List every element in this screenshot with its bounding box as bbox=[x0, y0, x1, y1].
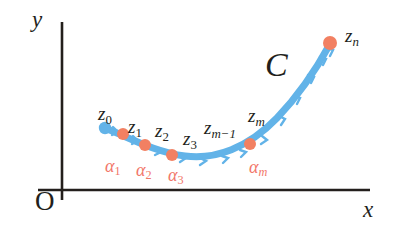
label-zm: zm bbox=[248, 106, 265, 129]
label-alpha-1-subscript: 1 bbox=[114, 164, 120, 178]
point-zn bbox=[323, 36, 337, 50]
x-axis-label: x bbox=[363, 198, 373, 221]
y-axis-label: y bbox=[32, 8, 42, 31]
point-zm bbox=[244, 138, 256, 150]
label-z2-subscript: 2 bbox=[162, 129, 168, 144]
label-alpha-3: α3 bbox=[168, 166, 184, 187]
label-z1-subscript: 1 bbox=[135, 125, 141, 140]
point-z2 bbox=[139, 139, 151, 151]
label-alpha-m-subscript: m bbox=[258, 165, 267, 179]
figure-canvas: y x O C z0 z1 z2 z3 zm−1 zm zn α1 α2 α3 … bbox=[0, 0, 407, 250]
label-zm-subscript: m bbox=[255, 114, 264, 129]
label-alpha-2: α2 bbox=[136, 161, 152, 182]
label-alpha-m: αm bbox=[249, 158, 267, 179]
label-z3: z3 bbox=[183, 129, 197, 152]
point-z3 bbox=[166, 149, 178, 161]
label-zn-subscript: n bbox=[352, 34, 358, 49]
label-z3-subscript: 3 bbox=[190, 137, 196, 152]
label-alpha-2-subscript: 2 bbox=[145, 168, 151, 182]
origin-label: O bbox=[35, 188, 55, 215]
label-zm-minus-1-subscript: m−1 bbox=[211, 126, 235, 141]
label-alpha-1: α1 bbox=[105, 157, 121, 178]
label-z2: z2 bbox=[155, 121, 169, 144]
label-z0: z0 bbox=[98, 104, 112, 127]
curve-label-C: C bbox=[265, 48, 288, 82]
label-zn: zn bbox=[345, 26, 359, 49]
label-z0-subscript: 0 bbox=[105, 112, 111, 127]
label-zm-minus-1: zm−1 bbox=[204, 118, 236, 141]
label-alpha-3-subscript: 3 bbox=[177, 173, 183, 187]
label-z1: z1 bbox=[128, 117, 142, 140]
